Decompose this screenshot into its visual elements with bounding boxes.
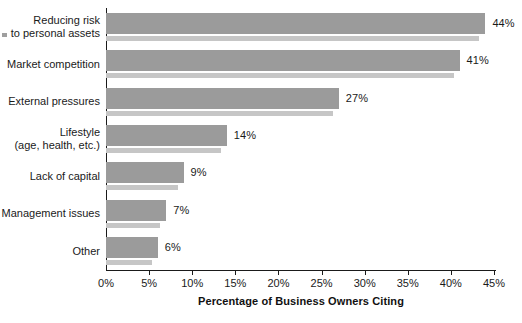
x-axis-tick — [494, 270, 495, 275]
x-axis-tick — [322, 270, 323, 275]
x-axis-tick — [408, 270, 409, 275]
x-axis-tick-label: 10% — [181, 277, 203, 289]
x-axis-tick — [278, 270, 279, 275]
category-label: Market competition — [0, 58, 100, 71]
bar-value-label: 41% — [467, 54, 489, 66]
bar — [106, 237, 158, 258]
x-axis-tick-label: 0% — [98, 277, 114, 289]
x-axis-tick-label: 5% — [141, 277, 157, 289]
bar-shadow — [106, 185, 178, 190]
x-axis-tick-label: 30% — [354, 277, 376, 289]
x-axis-tick — [365, 270, 366, 275]
category-label: Lack of capital — [0, 170, 100, 183]
category-label: Lifestyle (age, health, etc.) — [0, 126, 100, 152]
bar-value-label: 44% — [492, 17, 514, 29]
x-axis-tick-label: 15% — [224, 277, 246, 289]
bar-shadow — [106, 223, 160, 228]
bar-shadow — [106, 148, 221, 153]
x-axis-tick — [192, 270, 193, 275]
bar-shadow — [106, 111, 333, 116]
x-axis-tick-label: 45% — [483, 277, 505, 289]
bar-value-label: 14% — [234, 129, 256, 141]
bar-shadow — [106, 36, 479, 41]
bar-value-label: 27% — [346, 92, 368, 104]
x-axis-tick-label: 25% — [311, 277, 333, 289]
x-axis-tick — [149, 270, 150, 275]
bar-value-label: 9% — [191, 166, 207, 178]
x-axis-tick — [451, 270, 452, 275]
category-label-group: Reducing risk to personal assetsMarket c… — [0, 8, 100, 270]
category-label: External pressures — [0, 95, 100, 108]
bar — [106, 200, 166, 221]
bar-value-label: 7% — [173, 204, 189, 216]
bar-value-label: 6% — [165, 241, 181, 253]
bar — [106, 88, 339, 109]
x-axis-tick — [235, 270, 236, 275]
bar-shadow — [106, 73, 454, 78]
bar — [106, 162, 184, 183]
category-label: Other — [0, 245, 100, 258]
category-label: Reducing risk to personal assets — [0, 14, 100, 40]
category-label: Management issues — [0, 207, 100, 220]
plot-area: 44%41%27%14%9%7%6% — [106, 8, 494, 270]
bar-chart: Reducing risk to personal assetsMarket c… — [0, 0, 522, 323]
bar — [106, 50, 460, 71]
x-axis-tick-label: 35% — [397, 277, 419, 289]
x-axis-title: Percentage of Business Owners Citing — [106, 295, 496, 307]
x-axis-tick-label: 20% — [267, 277, 289, 289]
value-axis-line — [106, 270, 496, 271]
bar-shadow — [106, 260, 152, 265]
bar — [106, 13, 485, 34]
bar — [106, 125, 227, 146]
x-axis-tick-label: 40% — [440, 277, 462, 289]
